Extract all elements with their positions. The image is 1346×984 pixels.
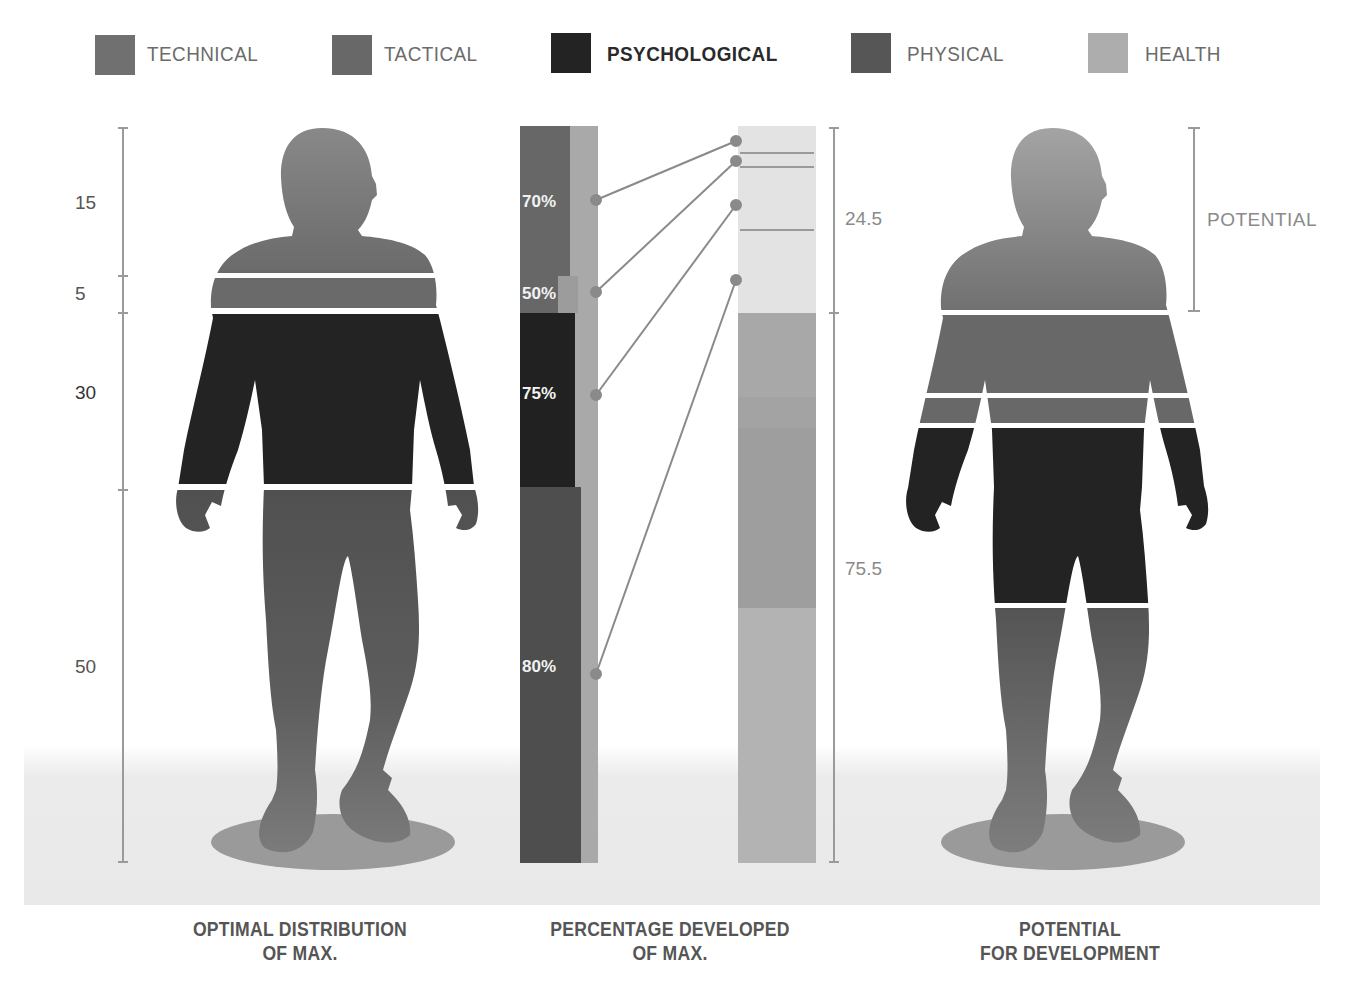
pct-psychological: 75% (522, 384, 556, 404)
left-divider-1 (205, 273, 440, 278)
left-divider-3 (170, 484, 480, 490)
connector-lines (591, 136, 741, 679)
right-floor-shadow (941, 814, 1185, 870)
right-figure (880, 120, 1240, 870)
potential-bracket-label: POTENTIAL (1207, 209, 1317, 231)
pct-tactical: 50% (522, 284, 556, 304)
caption-percentage-line1: PERCENTAGE DEVELOPED (525, 917, 815, 941)
right-bar-scale (829, 128, 839, 862)
caption-optimal-line2: OF MAX. (168, 941, 432, 965)
caption-potential-line2: FOR DEVELOPMENT (938, 941, 1202, 965)
left-scale (118, 128, 128, 862)
left-scale-label-technical: 15 (75, 192, 96, 214)
potential-bar (738, 126, 816, 863)
caption-optimal-distribution: OPTIMAL DISTRIBUTION OF MAX. (168, 917, 432, 965)
developed-value-label: 75.5 (845, 558, 882, 580)
left-scale-label-psychological: 30 (75, 382, 96, 404)
pct-physical: 80% (522, 657, 556, 677)
left-figure (150, 120, 510, 870)
caption-potential-line1: POTENTIAL (938, 917, 1202, 941)
infographic-canvas (0, 0, 1346, 984)
left-scale-label-physical: 50 (75, 656, 96, 678)
potential-bracket (1188, 128, 1200, 311)
left-floor-shadow (211, 814, 455, 870)
pct-technical: 70% (522, 192, 556, 212)
caption-percentage-developed: PERCENTAGE DEVELOPED OF MAX. (525, 917, 815, 965)
potential-value-label: 24.5 (845, 208, 882, 230)
caption-potential-for-development: POTENTIAL FOR DEVELOPMENT (938, 917, 1202, 965)
caption-percentage-line2: OF MAX. (525, 941, 815, 965)
developed-bar (520, 126, 598, 863)
left-scale-label-tactical: 5 (75, 283, 86, 305)
left-divider-2 (205, 308, 440, 314)
caption-optimal-line1: OPTIMAL DISTRIBUTION (168, 917, 432, 941)
